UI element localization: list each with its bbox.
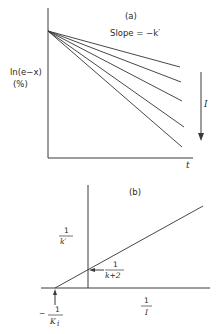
decay-line-4	[48, 31, 184, 127]
svg-text:1: 1	[55, 305, 60, 314]
arrow-up-icon	[53, 289, 57, 295]
decay-line-3	[48, 31, 182, 101]
panel-b-x-label: 1 I	[141, 296, 152, 317]
reciprocal-plot-line	[55, 206, 203, 288]
panel-a-x-label: t	[186, 160, 190, 170]
panel-a: (a) Slope = −k′ ln(e−x) (%) t I	[10, 8, 208, 170]
svg-text:K: K	[49, 317, 56, 326]
figure-canvas: (a) Slope = −k′ ln(e−x) (%) t I (b) 1 k′…	[0, 0, 220, 334]
panel-a-y-label: ln(e−x)	[10, 67, 42, 77]
panel-b-label: (b)	[129, 187, 141, 197]
svg-text:1: 1	[113, 260, 118, 269]
arrow-head-icon	[198, 133, 204, 141]
panel-a-y-unit: (%)	[13, 79, 28, 89]
svg-text:−: −	[39, 309, 45, 318]
svg-text:I: I	[144, 308, 149, 317]
panel-a-label: (a)	[125, 11, 137, 21]
svg-text:i: i	[57, 319, 60, 328]
decay-line-2	[48, 31, 181, 82]
decay-line-5	[48, 31, 182, 147]
y-intercept-label: 1 k+2	[105, 260, 124, 280]
x-intercept-label: − 1 K i	[39, 305, 63, 328]
svg-text:1: 1	[144, 296, 149, 305]
panel-b-y-label: 1 k′	[59, 226, 73, 246]
panel-b: (b) 1 k′ 1 k+2 − 1 K i 1 I	[39, 185, 210, 328]
svg-text:1: 1	[64, 226, 69, 235]
slope-annotation: Slope = −k′	[110, 28, 160, 38]
arrow-label: I	[203, 99, 208, 109]
svg-text:k+2: k+2	[105, 271, 121, 280]
svg-text:k′: k′	[60, 237, 67, 246]
